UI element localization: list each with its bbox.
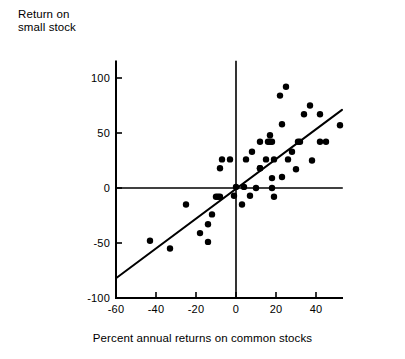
data-point [209, 211, 215, 217]
x-axis-label: Percent annual returns on common stocks [0, 332, 405, 344]
data-point [279, 174, 285, 180]
data-point [205, 239, 211, 245]
y-axis-tick-label: 100 [68, 72, 110, 84]
data-point [249, 149, 255, 155]
data-point [269, 175, 275, 181]
scatter-plot-figure: Return on small stock Percent annual ret… [0, 0, 405, 359]
data-point [269, 185, 275, 191]
data-point [219, 156, 225, 162]
data-point [337, 122, 343, 128]
data-point [293, 166, 299, 172]
data-point [147, 238, 153, 244]
data-point [309, 157, 315, 163]
data-point [271, 156, 277, 162]
y-axis-tick-label: -50 [68, 237, 110, 249]
data-point [317, 139, 323, 145]
data-point [271, 194, 277, 200]
data-point [301, 111, 307, 117]
data-point [167, 245, 173, 251]
data-point [217, 194, 223, 200]
data-point [253, 185, 259, 191]
data-point [263, 156, 269, 162]
data-point [267, 132, 273, 138]
data-point [257, 165, 263, 171]
y-axis-tick-label: 50 [68, 127, 110, 139]
data-point [307, 102, 313, 108]
data-point [247, 193, 253, 199]
regression-line [116, 110, 342, 278]
data-point [257, 139, 263, 145]
data-point [269, 139, 275, 145]
y-axis-tick-label: -100 [68, 292, 110, 304]
x-axis-tick-label: 40 [310, 303, 323, 315]
data-point [239, 201, 245, 207]
data-point [317, 111, 323, 117]
x-axis-tick-label: 20 [270, 303, 283, 315]
data-point [243, 156, 249, 162]
x-axis-tick-label: -60 [108, 303, 125, 315]
data-point [183, 201, 189, 207]
x-axis-tick-label: -20 [188, 303, 205, 315]
data-point [277, 92, 283, 98]
data-point [279, 121, 285, 127]
data-point [227, 156, 233, 162]
data-point [231, 193, 237, 199]
data-point [285, 156, 291, 162]
data-point [205, 221, 211, 227]
data-point [197, 230, 203, 236]
data-point [233, 184, 239, 190]
data-point [323, 139, 329, 145]
data-point [241, 184, 247, 190]
data-point [217, 165, 223, 171]
data-point [289, 149, 295, 155]
x-axis-tick-label: -40 [148, 303, 165, 315]
x-axis-tick-label: 0 [233, 303, 239, 315]
data-point [283, 84, 289, 90]
y-axis-tick-label: 0 [68, 182, 110, 194]
y-axis-label: Return on small stock [18, 8, 76, 34]
data-point [297, 139, 303, 145]
